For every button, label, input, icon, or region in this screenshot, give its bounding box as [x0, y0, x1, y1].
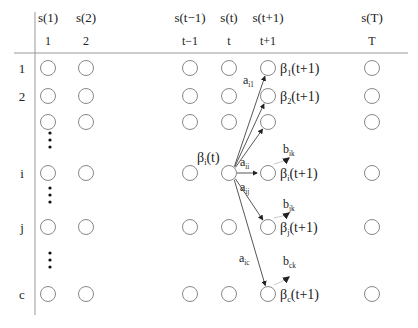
- column-state-label: s(T): [361, 10, 383, 25]
- state-node-circle: [261, 89, 276, 104]
- ellipsis-dot: [48, 145, 51, 148]
- state-node-circle: [261, 166, 276, 181]
- state-node-circle: [365, 61, 380, 76]
- row-state-label: c: [19, 287, 25, 302]
- row-state-label: 1: [19, 61, 26, 76]
- state-node-circle: [79, 61, 94, 76]
- beta-i-t-label: βi(t): [197, 150, 220, 167]
- transition-prob-label: aij: [240, 180, 249, 196]
- beta-next-label: β1(t+1): [280, 61, 320, 78]
- ellipsis-dots: [48, 131, 51, 268]
- column-state-label: s(t−1): [174, 10, 205, 25]
- column-state-label: s(t+1): [252, 10, 283, 25]
- transition-prob-label: ai1: [243, 73, 254, 89]
- ellipsis-dot: [48, 258, 51, 261]
- state-node-circle: [222, 61, 237, 76]
- beta-next-label: βc(t+1): [280, 287, 319, 304]
- state-node-circle: [261, 220, 276, 235]
- column-headers: s(1)1s(2)2s(t−1)t−1s(t)ts(t+1)t+1s(T)T: [38, 10, 383, 48]
- transition-prob-label: aic: [239, 251, 250, 267]
- emission-prob-label: bjk: [283, 197, 295, 213]
- emission-prob-label: bik: [283, 142, 295, 158]
- emission-prob-label: bck: [283, 254, 296, 270]
- state-node-circle: [365, 115, 380, 130]
- state-node-circle: [41, 61, 56, 76]
- column-time-label: t: [227, 34, 231, 48]
- emission-arrow-head: [285, 158, 289, 161]
- state-node-circle: [41, 89, 56, 104]
- state-node-circle: [261, 115, 276, 130]
- state-node-circle: [79, 115, 94, 130]
- column-state-label: s(1): [38, 10, 58, 25]
- state-node-circle: [79, 220, 94, 235]
- ellipsis-dot: [48, 186, 51, 189]
- emission-arrow-head: [285, 213, 289, 216]
- state-node-circle: [222, 220, 237, 235]
- column-time-label: t+1: [260, 34, 276, 48]
- row-state-label: i: [20, 166, 24, 181]
- state-node-circle: [222, 115, 237, 130]
- state-node-circle: [365, 220, 380, 235]
- state-node-circle: [365, 287, 380, 302]
- state-node-circle: [79, 287, 94, 302]
- state-node-circle: [365, 166, 380, 181]
- state-node-circle: [41, 287, 56, 302]
- state-nodes: [41, 61, 380, 302]
- ellipsis-dot: [48, 251, 51, 254]
- ellipsis-dot: [48, 138, 51, 141]
- column-time-label: 2: [83, 34, 89, 48]
- state-node-circle: [41, 115, 56, 130]
- row-state-label: j: [19, 220, 24, 235]
- state-node-circle: [41, 220, 56, 235]
- state-node-circle: [183, 287, 198, 302]
- state-node-circle: [222, 89, 237, 104]
- ellipsis-dot: [48, 131, 51, 134]
- state-node-circle: [79, 166, 94, 181]
- column-time-label: 1: [45, 34, 51, 48]
- column-time-label: t−1: [182, 34, 198, 48]
- state-node-circle: [222, 287, 237, 302]
- beta-next-label: βj(t+1): [280, 220, 318, 237]
- transition-arrow: [234, 180, 265, 286]
- beta-next-label: βi(t+1): [280, 166, 318, 183]
- state-node-circle: [222, 166, 237, 181]
- ellipsis-dot: [48, 200, 51, 203]
- ellipsis-dot: [48, 265, 51, 268]
- math-labels: βi(t)β1(t+1)β2(t+1)βi(t+1)βj(t+1)βc(t+1)…: [197, 61, 320, 304]
- state-node-circle: [183, 61, 198, 76]
- state-node-circle: [183, 220, 198, 235]
- emission-arrow-head: [285, 277, 289, 280]
- row-state-label: 2: [19, 89, 26, 104]
- state-node-circle: [183, 166, 198, 181]
- beta-next-label: β2(t+1): [280, 89, 320, 106]
- state-node-circle: [261, 61, 276, 76]
- column-state-label: s(2): [76, 10, 96, 25]
- state-node-circle: [41, 166, 56, 181]
- hmm-trellis-diagram: s(1)1s(2)2s(t−1)t−1s(t)ts(t+1)t+1s(T)T 1…: [0, 0, 418, 328]
- state-node-circle: [261, 287, 276, 302]
- column-state-label: s(t): [220, 10, 237, 25]
- row-labels: 12ijc: [19, 61, 26, 302]
- column-time-label: T: [368, 34, 376, 48]
- transition-prob-label: aii: [240, 155, 249, 171]
- ellipsis-dot: [48, 193, 51, 196]
- state-node-circle: [183, 115, 198, 130]
- state-node-circle: [79, 89, 94, 104]
- state-node-circle: [183, 89, 198, 104]
- state-node-circle: [365, 89, 380, 104]
